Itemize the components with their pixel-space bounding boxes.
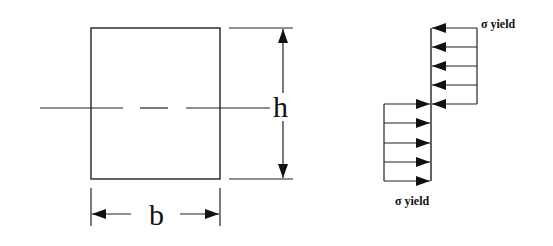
bottom-sigma-yield-label: σ yield bbox=[395, 194, 430, 208]
bottom-stress-block bbox=[384, 104, 430, 181]
cross-section-rectangle bbox=[91, 28, 220, 179]
diagram-canvas: h b σ yield σ yield bbox=[0, 0, 553, 246]
top-sigma-yield-label: σ yield bbox=[481, 17, 516, 31]
width-label: b bbox=[149, 198, 164, 231]
height-label: h bbox=[273, 90, 288, 123]
top-stress-block bbox=[432, 28, 477, 104]
